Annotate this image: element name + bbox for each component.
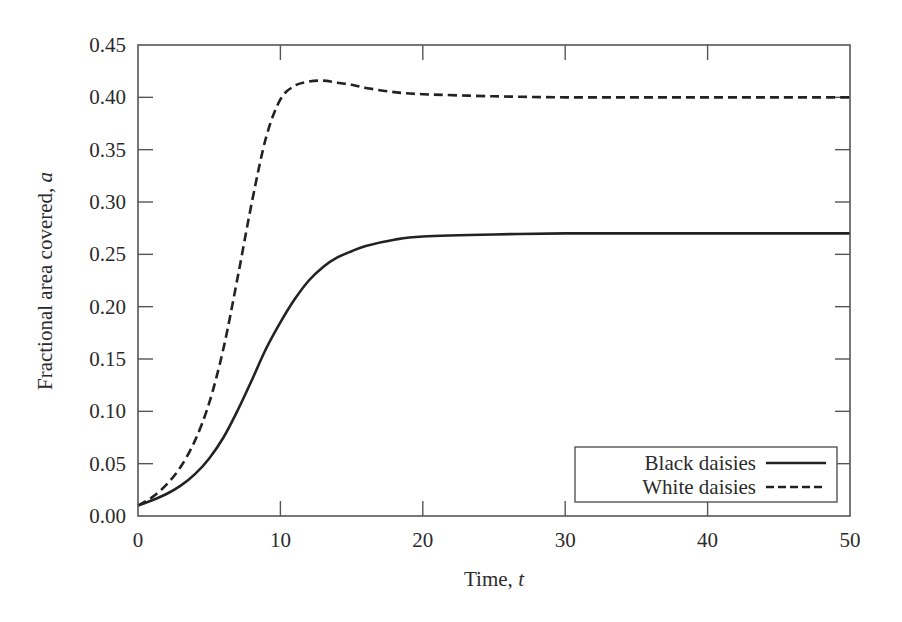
y-tick-label: 0.45: [89, 33, 126, 57]
x-tick-label: 50: [840, 528, 861, 552]
y-axis-label: Fractional area covered, a: [33, 172, 57, 390]
y-tick-label: 0.10: [89, 399, 126, 423]
line-chart: 01020304050 0.000.050.100.150.200.250.30…: [0, 0, 902, 622]
y-tick-label: 0.25: [89, 242, 126, 266]
legend: Black daisies White daisies: [575, 447, 837, 502]
y-tick-label: 0.15: [89, 347, 126, 371]
y-tick-label: 0.35: [89, 138, 126, 162]
plot-frame: [138, 45, 850, 516]
x-tick-label: 30: [555, 528, 576, 552]
x-tick-label: 10: [270, 528, 291, 552]
x-axis-label: Time, t: [464, 567, 525, 591]
y-tick-label: 0.00: [89, 504, 126, 528]
y-tick-label: 0.05: [89, 452, 126, 476]
x-tick-label: 20: [412, 528, 433, 552]
y-tick-label: 0.30: [89, 190, 126, 214]
legend-label-white-daisies: White daisies: [642, 475, 756, 499]
x-tick-label: 0: [133, 528, 144, 552]
series-layer: [138, 81, 850, 506]
y-tick-label: 0.20: [89, 295, 126, 319]
white-daisies-line: [138, 81, 850, 506]
legend-label-black-daisies: Black daisies: [645, 451, 756, 475]
x-tick-label: 40: [697, 528, 718, 552]
y-tick-label: 0.40: [89, 85, 126, 109]
